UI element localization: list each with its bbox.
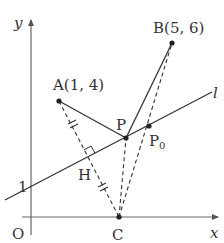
point-b-label: B(5, 6) [153,19,204,37]
point-c [116,214,121,219]
point-p0 [146,123,151,128]
point-a [56,98,61,103]
point-p-label: P [116,116,126,134]
point-c-label: C [112,226,123,243]
line-l [5,92,212,200]
point-p0-label: P0 [149,132,165,151]
segment-cb-dashed [119,43,172,217]
point-p [123,135,128,140]
point-b [169,40,174,45]
y-tick-label-1: 1 [18,178,28,196]
segment-cp-dashed [119,138,126,217]
segment-ac-dashed [59,101,119,217]
line-l-label: l [213,84,218,102]
point-a-label: A(1, 4) [52,76,104,94]
point-h-label: H [78,166,91,184]
geometry-diagram: y x O 1 l A(1, 4) B(5, 6) P P0 H C [0,0,224,243]
x-axis-label: x [210,224,219,242]
y-axis-label: y [13,14,23,32]
tick-mark-hc-2 [100,187,108,191]
tick-mark-ah-2 [70,124,78,128]
origin-label: O [12,225,24,243]
